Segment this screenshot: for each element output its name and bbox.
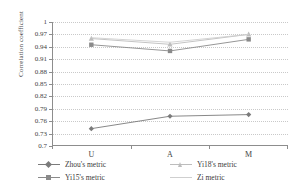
data-point-marker: [89, 43, 93, 47]
legend-item[interactable]: Yi18's metric: [170, 160, 298, 169]
data-point-marker: [167, 114, 172, 119]
legend-item[interactable]: Zi metric: [170, 173, 298, 182]
data-point-marker: [246, 32, 251, 37]
y-axis-title: Correlation coefficient: [17, 0, 25, 99]
legend-label: Zi metric: [197, 173, 225, 182]
chart-legend: Zhou's metricYi18's metricYi15's metricZ…: [38, 158, 298, 184]
y-tick-label: 0.79: [35, 105, 47, 113]
series-line: [91, 34, 248, 42]
legend-swatch-icon: [38, 173, 60, 182]
legend-label: Yi18's metric: [197, 160, 237, 169]
y-tick-label: 0.91: [35, 55, 47, 63]
legend-item[interactable]: Yi15's metric: [38, 173, 170, 182]
y-tick-label: 0.82: [35, 92, 47, 100]
legend-swatch-icon: [170, 160, 192, 169]
y-tick-label: 1: [44, 18, 48, 26]
legend-item[interactable]: Zhou's metric: [38, 160, 170, 169]
chart-figure: Correlation coefficient 0.70.730.760.790…: [0, 0, 306, 192]
legend-swatch-icon: [38, 160, 60, 169]
y-tick-label: 0.76: [35, 117, 47, 125]
data-point-marker: [168, 49, 172, 53]
data-point-marker: [246, 37, 250, 41]
y-tick-label: 0.97: [35, 30, 47, 38]
legend-label: Zhou's metric: [65, 160, 106, 169]
y-tick-label: 0.7: [38, 142, 47, 150]
y-tick-label: 0.85: [35, 80, 47, 88]
data-point-marker: [246, 112, 251, 117]
data-point-marker: [89, 126, 94, 131]
y-tick-label: 0.94: [35, 43, 47, 51]
legend-label: Yi15's metric: [65, 173, 105, 182]
series-lines: [52, 22, 288, 146]
plot-area: 0.70.730.760.790.820.850.880.910.940.971…: [52, 22, 288, 146]
y-tick-label: 0.73: [35, 130, 47, 138]
legend-swatch-icon: [170, 173, 192, 182]
y-tick-label: 0.88: [35, 68, 47, 76]
